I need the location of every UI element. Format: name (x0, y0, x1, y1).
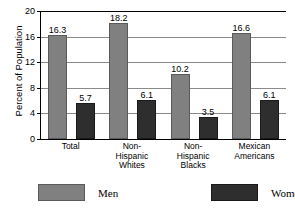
bar-women-0: 5.7 (76, 103, 95, 139)
bar-value-label: 6.1 (141, 90, 154, 100)
legend-item-men: Men (38, 184, 118, 201)
y-axis-tick-label: 12 (25, 57, 35, 67)
y-axis-tick (37, 88, 41, 89)
y-axis-tick-label: 20 (25, 6, 35, 16)
legend-label-men: Men (98, 187, 118, 199)
bar-value-label: 10.2 (171, 64, 189, 74)
legend-item-women: Women (211, 184, 295, 201)
x-axis-category-line: Americans (224, 152, 285, 162)
bar-women-1: 6.1 (137, 100, 156, 139)
x-axis-category-line: Total (40, 142, 101, 152)
plot-area: 04812162016.35.718.26.110.23.516.66.1 (40, 11, 286, 140)
bar-men-2: 10.2 (171, 74, 190, 139)
bar-women-2: 3.5 (199, 117, 218, 139)
legend-label-women: Women (271, 187, 295, 199)
x-axis-category-label: Non-HispanicBlacks (163, 142, 224, 171)
x-axis-category-label: Total (40, 142, 101, 152)
chart-legend: MenWomen (0, 184, 295, 208)
bar-value-label: 5.7 (79, 93, 92, 103)
bar-men-3: 16.6 (232, 33, 251, 139)
bar-men-0: 16.3 (48, 35, 67, 139)
y-axis-tick (37, 37, 41, 38)
y-axis-tick (37, 62, 41, 63)
bar-value-label: 3.5 (202, 107, 215, 117)
x-axis-category-label: MexicanAmericans (224, 142, 285, 161)
bar-value-label: 16.6 (233, 23, 251, 33)
y-axis-tick-label: 4 (30, 108, 35, 118)
y-axis-tick (37, 11, 41, 12)
y-axis-tick-label: 8 (30, 83, 35, 93)
y-gridline (41, 11, 286, 12)
bar-men-1: 18.2 (109, 23, 128, 139)
legend-swatch-women (211, 184, 258, 201)
bar-value-label: 6.1 (263, 90, 276, 100)
y-axis-tick (37, 139, 41, 140)
x-axis-category-line: Whites (101, 161, 162, 171)
y-axis-title: Percent of Population (12, 1, 26, 141)
y-axis-tick-label: 16 (25, 32, 35, 42)
x-axis-category-line: Blacks (163, 161, 224, 171)
legend-swatch-men (38, 184, 85, 201)
bar-chart-figure: Percent of Population 04812162016.35.718… (0, 0, 295, 215)
bar-women-3: 6.1 (260, 100, 279, 139)
y-axis-tick (37, 113, 41, 114)
bar-value-label: 18.2 (110, 13, 128, 23)
x-axis-category-label: Non-HispanicWhites (101, 142, 162, 171)
y-axis-tick-label: 0 (30, 134, 35, 144)
bar-value-label: 16.3 (49, 25, 67, 35)
